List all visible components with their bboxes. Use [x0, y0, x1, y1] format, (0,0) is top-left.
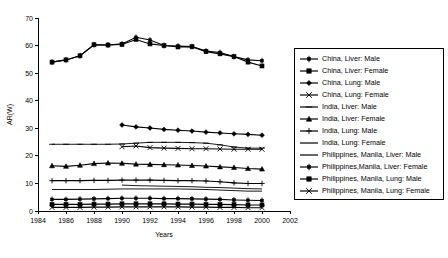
data-point: [190, 129, 195, 134]
legend-label: Philippines,Manila, Liver: Female: [322, 162, 427, 172]
data-point: [245, 181, 250, 186]
legend-label: China, Lung: Female: [322, 90, 389, 100]
chart-legend: China, Liver: MaleChina, Liver: FemaleCh…: [294, 48, 444, 200]
chart-svg: 0102030405060701984198619881990199219941…: [0, 0, 300, 258]
data-point: [134, 38, 138, 42]
series-line: [52, 207, 262, 208]
legend-item[interactable]: Philippines, Manila, Liver: Male: [299, 149, 440, 161]
legend-item[interactable]: India, Liver: Male: [299, 101, 440, 113]
data-point: [261, 58, 264, 64]
data-point: [78, 54, 82, 58]
legend-item[interactable]: India, Liver: Female: [299, 113, 440, 125]
data-point: [218, 131, 223, 136]
data-point: [259, 181, 264, 186]
series-2: [120, 123, 265, 138]
series-0: [51, 34, 264, 65]
data-point: [260, 133, 265, 138]
data-point: [148, 126, 153, 131]
series-10: [50, 202, 264, 207]
x-tick-label: 1986: [58, 217, 74, 224]
x-axis-title: Years: [155, 231, 173, 238]
data-point: [176, 45, 180, 49]
legend-marker-icon: [299, 114, 319, 124]
legend-item[interactable]: India, Lung: Female: [299, 137, 440, 149]
series-line: [52, 142, 262, 148]
y-tick-label: 50: [25, 70, 33, 77]
data-point: [121, 195, 124, 201]
data-point: [135, 195, 138, 201]
series-line: [52, 37, 262, 62]
data-point: [246, 60, 250, 64]
legend-item[interactable]: China, Lung: Male: [299, 77, 440, 89]
data-point: [106, 43, 110, 47]
legend-item[interactable]: China, Liver: Female: [299, 65, 440, 77]
chart-root: 0102030405060701984198619881990199219941…: [0, 0, 448, 258]
series-9: [51, 195, 264, 203]
data-point: [246, 132, 251, 137]
data-point: [92, 43, 96, 47]
data-point: [163, 196, 166, 202]
data-point: [107, 196, 110, 202]
data-point: [63, 178, 68, 183]
x-tick-label: 2002: [282, 217, 298, 224]
series-group: [49, 34, 265, 210]
data-point: [77, 178, 82, 183]
legend-label: Philippines, Manila, Liver: Male: [322, 150, 421, 160]
series-line: [52, 189, 262, 191]
series-line: [52, 204, 262, 205]
data-point: [217, 179, 222, 184]
legend-item[interactable]: Philippines, Manila, Lung: Male: [299, 173, 440, 185]
legend-marker-icon: [299, 54, 319, 64]
data-point: [120, 42, 124, 46]
data-point: [162, 127, 167, 132]
series-line: [52, 180, 262, 183]
data-point: [306, 128, 312, 134]
legend-item[interactable]: Philippines,Manila, Liver: Female: [299, 161, 440, 173]
legend-label: Philippines, Manila, Lung: Female: [322, 186, 430, 196]
data-point: [307, 177, 311, 181]
data-point: [191, 196, 194, 202]
data-point: [231, 180, 236, 185]
data-point: [233, 197, 236, 203]
data-point: [79, 196, 82, 202]
data-point: [175, 178, 180, 183]
x-tick-label: 1990: [114, 217, 130, 224]
legend-item[interactable]: China, Lung: Female: [299, 89, 440, 101]
legend-marker-icon: [299, 138, 319, 148]
data-point: [64, 58, 68, 62]
x-tick-label: 1998: [226, 217, 242, 224]
legend-label: China, Lung: Male: [322, 78, 380, 88]
legend-marker-icon: [299, 174, 319, 184]
series-7: [52, 189, 262, 191]
data-point: [134, 125, 139, 130]
y-tick-label: 60: [25, 42, 33, 49]
series-line: [52, 198, 262, 200]
series-4: [49, 142, 265, 148]
y-tick-label: 70: [25, 15, 33, 22]
legend-label: India, Liver: Male: [322, 102, 377, 112]
y-tick-label: 30: [25, 125, 33, 132]
data-point: [65, 197, 68, 203]
data-point: [218, 52, 222, 56]
data-point: [51, 197, 54, 203]
legend-item[interactable]: Philippines, Manila, Lung: Female: [299, 185, 440, 197]
data-point: [232, 55, 236, 59]
legend-marker-icon: [299, 162, 319, 172]
legend-item[interactable]: India, Lung: Male: [299, 125, 440, 137]
data-point: [91, 178, 96, 183]
y-axis-ticks: 010203040506070: [25, 15, 38, 215]
data-point: [93, 196, 96, 202]
data-point: [204, 130, 209, 135]
data-point: [50, 60, 54, 64]
legend-label: India, Liver: Female: [322, 114, 385, 124]
x-tick-label: 2000: [254, 217, 270, 224]
x-tick-label: 1994: [170, 217, 186, 224]
legend-label: India, Lung: Male: [322, 126, 377, 136]
data-point: [190, 45, 194, 49]
series-line: [52, 163, 262, 169]
y-axis-title: AR(W): [6, 104, 14, 125]
data-point: [219, 197, 222, 203]
legend-item[interactable]: China, Liver: Male: [299, 53, 440, 65]
x-tick-label: 1992: [142, 217, 158, 224]
data-point: [232, 131, 237, 136]
